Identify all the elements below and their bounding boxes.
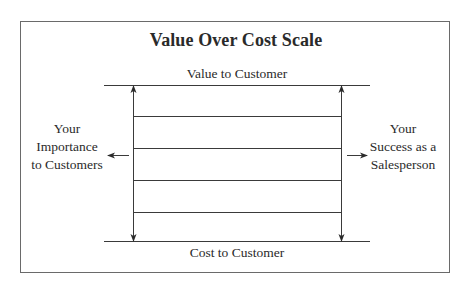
scale-diagram — [0, 0, 472, 289]
